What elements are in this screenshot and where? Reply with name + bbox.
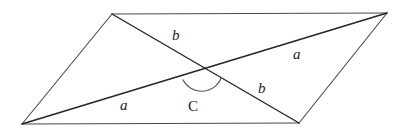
diagonal-b-line [112, 14, 299, 123]
angle-label-c: C [188, 99, 198, 114]
parallelogram-bottom-edge [22, 123, 299, 124]
angle-arc-icon [183, 78, 221, 92]
figure-canvas [0, 0, 398, 131]
parallelogram-left-edge [22, 14, 112, 124]
side-label-a-upper: a [293, 47, 301, 62]
parallelogram-right-edge [299, 13, 387, 123]
side-label-b-upper: b [172, 28, 180, 43]
parallelogram-top-edge [112, 13, 387, 14]
side-label-b-lower: b [258, 81, 266, 96]
geometry-figure: b a b a C [0, 0, 398, 131]
side-label-a-lower: a [120, 98, 128, 113]
